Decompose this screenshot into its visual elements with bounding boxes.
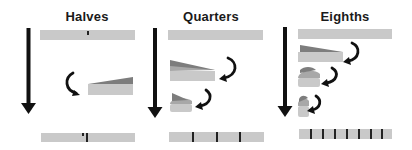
folded-strip-eighth [298,96,309,117]
folded-strip-quarter [298,67,320,87]
curved-fold-arrow-icon [200,90,210,106]
down-arrow-icon [148,28,163,118]
curved-fold-arrow-icon [348,43,358,61]
curved-fold-arrow-icon [326,68,336,83]
folded-strip-quarter [170,93,192,112]
folded-strip-half [88,77,133,95]
curved-fold-arrow-icon [224,58,235,78]
diagram-graphics [0,0,412,150]
folded-strip-half [298,45,343,62]
curved-fold-arrow-icon [67,73,76,93]
down-arrow-icon [21,28,36,114]
down-arrow-icon [278,27,293,117]
folded-strip-half [170,60,215,81]
